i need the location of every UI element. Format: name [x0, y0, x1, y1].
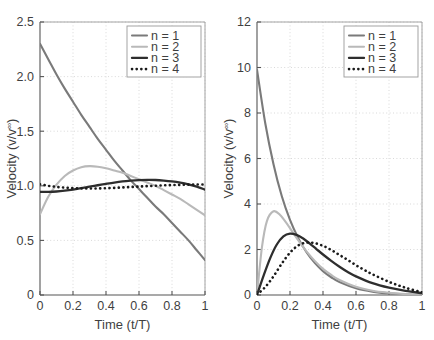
y-tick-label: 6: [244, 152, 251, 166]
y-tick-label: 12: [237, 15, 251, 29]
y-axis-title: Velocity (v/v∞): [221, 119, 236, 199]
data-series-line: [257, 70, 422, 295]
x-tick-label: 1: [202, 299, 209, 313]
x-tick-label: 0.6: [347, 299, 364, 313]
data-series-line: [257, 243, 422, 295]
y-tick-label: 1.5: [17, 125, 34, 139]
chart-panel-right: 02468101200.20.40.60.81Time (t/T)Velocit…: [217, 0, 434, 340]
y-tick-label: 0: [27, 288, 34, 302]
x-axis-title: Time (t/T): [95, 317, 151, 332]
legend-label: n = 4: [151, 62, 179, 76]
x-tick-label: 0.2: [281, 299, 298, 313]
legend-label: n = 4: [368, 62, 396, 76]
y-tick-label: 2.5: [17, 15, 34, 29]
y-tick-label: 0.5: [17, 234, 34, 248]
x-tick-label: 0.8: [163, 299, 180, 313]
legend: n = 1n = 2n = 3n = 4: [344, 26, 418, 77]
y-tick-label: 1.0: [17, 179, 34, 193]
figure-container: 00.51.01.52.02.500.20.40.60.81Time (t/T)…: [0, 0, 434, 340]
x-tick-label: 0.4: [97, 299, 114, 313]
x-tick-label: 0: [254, 299, 261, 313]
y-tick-label: 10: [237, 61, 251, 75]
y-tick-label: 2.0: [17, 70, 34, 84]
y-axis-title: Velocity (v/v∞): [4, 119, 19, 199]
chart-panel-left: 00.51.01.52.02.500.20.40.60.81Time (t/T)…: [0, 0, 217, 340]
y-tick-label: 0: [244, 288, 251, 302]
x-tick-label: 0.4: [314, 299, 331, 313]
data-curves: [257, 70, 422, 295]
data-series-line: [40, 184, 205, 188]
legend: n = 1n = 2n = 3n = 4: [127, 26, 201, 77]
x-tick-label: 0.6: [130, 299, 147, 313]
data-series-line: [257, 234, 422, 295]
x-tick-label: 1: [419, 299, 426, 313]
x-tick-label: 0: [37, 299, 44, 313]
y-tick-label: 4: [244, 197, 251, 211]
y-tick-label: 2: [244, 243, 251, 257]
x-tick-label: 0.8: [380, 299, 397, 313]
x-tick-label: 0.2: [64, 299, 81, 313]
x-axis-title: Time (t/T): [312, 317, 368, 332]
y-tick-label: 8: [244, 106, 251, 120]
